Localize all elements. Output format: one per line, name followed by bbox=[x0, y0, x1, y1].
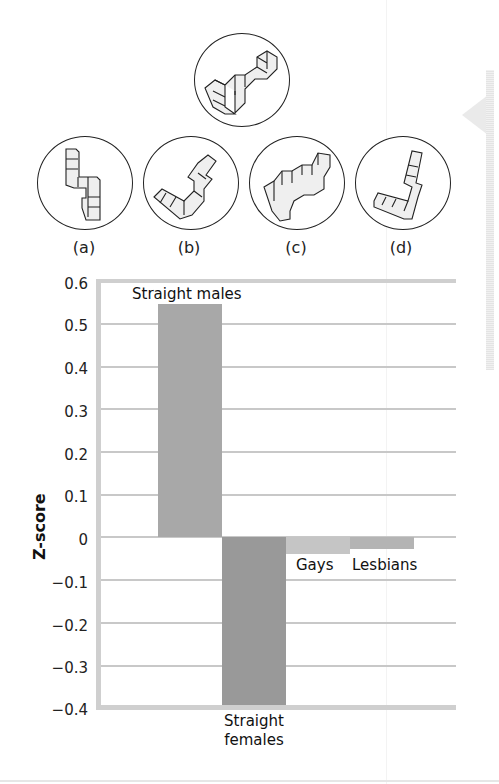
y-tick: 0.5 bbox=[38, 317, 88, 335]
gridline bbox=[101, 494, 456, 496]
cube-shape-icon bbox=[38, 137, 132, 229]
gridline bbox=[101, 451, 456, 453]
y-tick: 0 bbox=[38, 531, 88, 549]
gridline bbox=[101, 323, 456, 325]
gridline bbox=[101, 408, 456, 410]
cube-shape-icon bbox=[250, 137, 344, 229]
y-tick: 0.2 bbox=[38, 446, 88, 464]
y-tick: 0.6 bbox=[38, 275, 88, 293]
y-tick: 0.4 bbox=[38, 360, 88, 378]
cube-shape-icon bbox=[144, 137, 238, 229]
label-gays: Gays bbox=[296, 556, 334, 574]
bar-lesbians bbox=[350, 537, 414, 549]
label-lesbians: Lesbians bbox=[352, 556, 417, 574]
side-decoration-bar bbox=[486, 70, 494, 370]
gridline bbox=[101, 366, 456, 368]
option-b-label: (b) bbox=[169, 238, 209, 257]
y-tick: −0.4 bbox=[38, 701, 88, 719]
bar-straight-females bbox=[222, 537, 286, 705]
plot-frame-top bbox=[96, 279, 456, 283]
y-tick: −0.1 bbox=[38, 574, 88, 592]
y-tick: −0.2 bbox=[38, 617, 88, 635]
option-d-circle[interactable] bbox=[355, 136, 451, 230]
target-shape-circle bbox=[194, 33, 290, 127]
bar-straight-males bbox=[158, 304, 222, 537]
label-straight-females-2: females bbox=[221, 731, 287, 749]
option-a-label: (a) bbox=[64, 238, 104, 257]
option-a-circle[interactable] bbox=[37, 136, 133, 230]
option-c-circle[interactable] bbox=[249, 136, 345, 230]
option-b-circle[interactable] bbox=[143, 136, 239, 230]
bar-gays bbox=[286, 537, 350, 554]
label-straight-females-1: Straight bbox=[221, 712, 287, 730]
y-tick: 0.1 bbox=[38, 488, 88, 506]
y-tick: −0.3 bbox=[38, 659, 88, 677]
cube-shape-icon bbox=[356, 137, 450, 229]
option-d-label: (d) bbox=[381, 238, 421, 257]
label-straight-males: Straight males bbox=[132, 285, 242, 303]
page-bottom-divider bbox=[0, 780, 499, 782]
plot-frame-bottom bbox=[96, 705, 456, 710]
option-c-label: (c) bbox=[276, 238, 316, 257]
y-tick: 0.3 bbox=[38, 403, 88, 421]
side-decoration-notch bbox=[462, 95, 488, 135]
cube-shape-icon bbox=[195, 34, 289, 126]
